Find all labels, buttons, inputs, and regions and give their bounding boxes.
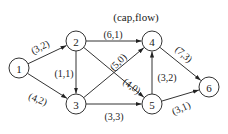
node-label: 2	[73, 36, 79, 48]
node-6: 6	[199, 77, 219, 97]
diagram-legend-title: (cap,flow)	[113, 11, 159, 24]
node-2: 2	[66, 31, 86, 51]
edge-label-2-4: (6,1)	[103, 29, 122, 41]
edge-label-1-3: (4,2)	[27, 90, 49, 108]
edge-label-3-5: (3,3)	[104, 111, 123, 123]
flow-network-diagram: (cap,flow) (3,2)(4,2)(1,1)(6,1)(4,0)(5,0…	[0, 0, 228, 134]
arrow-icon	[162, 90, 199, 101]
edge-label-2-3: (1,1)	[54, 68, 73, 80]
node-label: 6	[206, 82, 212, 94]
node-label: 4	[149, 36, 155, 48]
node-label: 1	[16, 63, 22, 75]
edge-5-6	[162, 90, 199, 101]
node-3: 3	[66, 94, 86, 114]
edge-label-4-6: (7,3)	[173, 43, 195, 65]
node-4: 4	[142, 31, 162, 51]
node-label: 3	[73, 99, 79, 111]
node-1: 1	[9, 58, 29, 78]
edge-label-5-6: (3,1)	[170, 99, 192, 118]
node-label: 5	[149, 99, 155, 111]
node-5: 5	[142, 94, 162, 114]
edge-label-5-4: (3,2)	[157, 72, 176, 84]
